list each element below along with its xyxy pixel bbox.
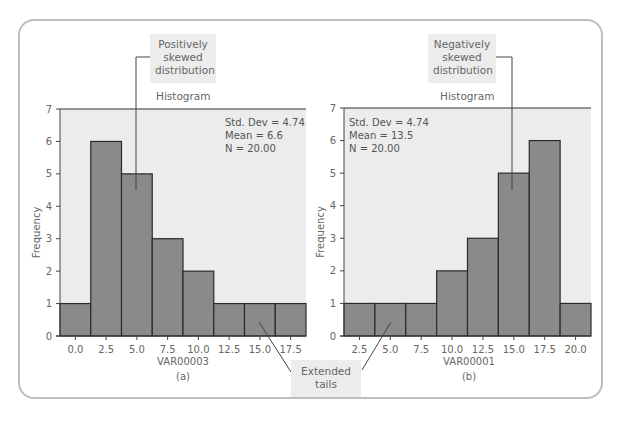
x-tick-label: 12.5 xyxy=(218,344,240,355)
x-tick-label: 10.0 xyxy=(441,344,463,355)
histogram-bar xyxy=(468,238,499,336)
x-tick-label: 15.0 xyxy=(503,344,525,355)
y-tick-label: 1 xyxy=(330,298,336,309)
histogram-bar xyxy=(91,141,122,336)
x-tick-label: 2.5 xyxy=(98,344,114,355)
y-tick-label: 3 xyxy=(46,233,52,244)
histogram-bar xyxy=(375,303,406,336)
chart-a-title: Histogram xyxy=(156,90,210,102)
y-tick-label: 0 xyxy=(46,331,52,342)
histogram-bar xyxy=(245,304,276,336)
callout-positively-skewed: Positively skewed distribution xyxy=(150,34,216,83)
x-tick-label: 7.5 xyxy=(160,344,176,355)
y-tick-label: 2 xyxy=(330,265,336,276)
y-tick-label: 4 xyxy=(330,200,336,211)
n-label: N = 20.00 xyxy=(225,142,305,155)
x-tick-label: 10.0 xyxy=(187,344,209,355)
callout-negatively-skewed: Negatively skewed distribution xyxy=(428,34,496,83)
std-dev-label: Std. Dev = 4.74 xyxy=(349,116,429,129)
mean-label: Mean = 13.5 xyxy=(349,129,429,142)
histogram-bar xyxy=(529,141,560,336)
chart-b-xlabel: VAR00001 xyxy=(419,356,519,367)
histogram-bar xyxy=(344,303,375,336)
callout-line: skewed xyxy=(155,51,211,64)
y-tick-label: 5 xyxy=(46,168,52,179)
y-tick-label: 4 xyxy=(46,201,52,212)
x-tick-label: 5.0 xyxy=(382,344,398,355)
chart-b-stats: Std. Dev = 4.74 Mean = 13.5 N = 20.00 xyxy=(349,116,429,155)
x-tick-label: 7.5 xyxy=(413,344,429,355)
x-tick-label: 2.5 xyxy=(351,344,367,355)
callout-line: tails xyxy=(296,378,356,391)
x-tick-label: 20.0 xyxy=(564,344,586,355)
y-axis-label: Frequency xyxy=(31,207,42,259)
x-tick-label: 0.0 xyxy=(67,344,83,355)
y-tick-label: 7 xyxy=(330,103,336,114)
x-tick-label: 15.0 xyxy=(249,344,271,355)
y-axis-label: Frequency xyxy=(315,206,326,258)
callout-line: Positively xyxy=(155,38,211,51)
histogram-bar xyxy=(214,304,245,336)
x-tick-label: 17.5 xyxy=(534,344,556,355)
y-tick-label: 3 xyxy=(330,233,336,244)
y-tick-label: 1 xyxy=(46,298,52,309)
chart-a-stats: Std. Dev = 4.74 Mean = 6.6 N = 20.00 xyxy=(225,116,305,155)
y-tick-label: 0 xyxy=(330,331,336,342)
histogram-bar xyxy=(60,304,91,336)
callout-extended-tails: Extended tails xyxy=(291,360,361,397)
mean-label: Mean = 6.6 xyxy=(225,129,305,142)
callout-line: Negatively xyxy=(433,38,491,51)
x-tick-label: 12.5 xyxy=(472,344,494,355)
callout-line: distribution xyxy=(155,64,211,77)
x-tick-label: 5.0 xyxy=(129,344,145,355)
std-dev-label: Std. Dev = 4.74 xyxy=(225,116,305,129)
histogram-bar xyxy=(275,304,306,336)
callout-line: skewed xyxy=(433,51,491,64)
histogram-bar xyxy=(437,271,468,336)
n-label: N = 20.00 xyxy=(349,142,429,155)
histogram-bar xyxy=(183,271,214,336)
chart-b-title: Histogram xyxy=(440,90,494,102)
chart-b-caption: (b) xyxy=(419,371,519,382)
y-tick-label: 6 xyxy=(46,136,52,147)
y-tick-label: 7 xyxy=(46,104,52,115)
histogram-bar xyxy=(122,174,153,336)
chart-a-caption: (a) xyxy=(133,371,233,382)
y-tick-label: 5 xyxy=(330,168,336,179)
histogram-bar xyxy=(406,303,437,336)
histogram-bar xyxy=(152,239,183,336)
y-tick-label: 6 xyxy=(330,135,336,146)
y-tick-label: 2 xyxy=(46,266,52,277)
histogram-bar xyxy=(498,173,529,336)
x-tick-label: 17.5 xyxy=(279,344,301,355)
chart-a-xlabel: VAR00003 xyxy=(133,356,233,367)
callout-line: Extended xyxy=(296,365,356,378)
histogram-bar xyxy=(560,303,591,336)
callout-line: distribution xyxy=(433,64,491,77)
